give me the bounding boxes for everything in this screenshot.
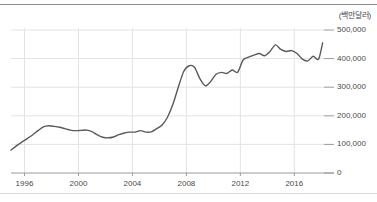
chart-gridlines [11, 28, 324, 173]
line-chart-canvas [0, 0, 377, 202]
y-axis-tick-label: 500,000 [337, 25, 366, 34]
x-axis-tick-label: 2008 [177, 179, 195, 188]
y-axis-tick-label: 400,000 [337, 54, 366, 63]
x-axis-tick-label: 2004 [124, 179, 142, 188]
y-axis-tick-label: 300,000 [337, 82, 366, 91]
y-axis-tick-label: 100,000 [337, 139, 366, 148]
chart-y-tick-marks [324, 30, 334, 173]
x-axis-tick-label: 2016 [285, 179, 303, 188]
x-axis-tick-label: 1996 [16, 179, 34, 188]
chart-figure: (백만달러) 0100,000200,000300,000400,000500,… [0, 0, 377, 202]
x-axis-tick-label: 2000 [70, 179, 88, 188]
y-axis-tick-label: 0 [337, 168, 341, 177]
x-axis-tick-label: 2012 [231, 179, 249, 188]
y-axis-tick-label: 200,000 [337, 111, 366, 120]
